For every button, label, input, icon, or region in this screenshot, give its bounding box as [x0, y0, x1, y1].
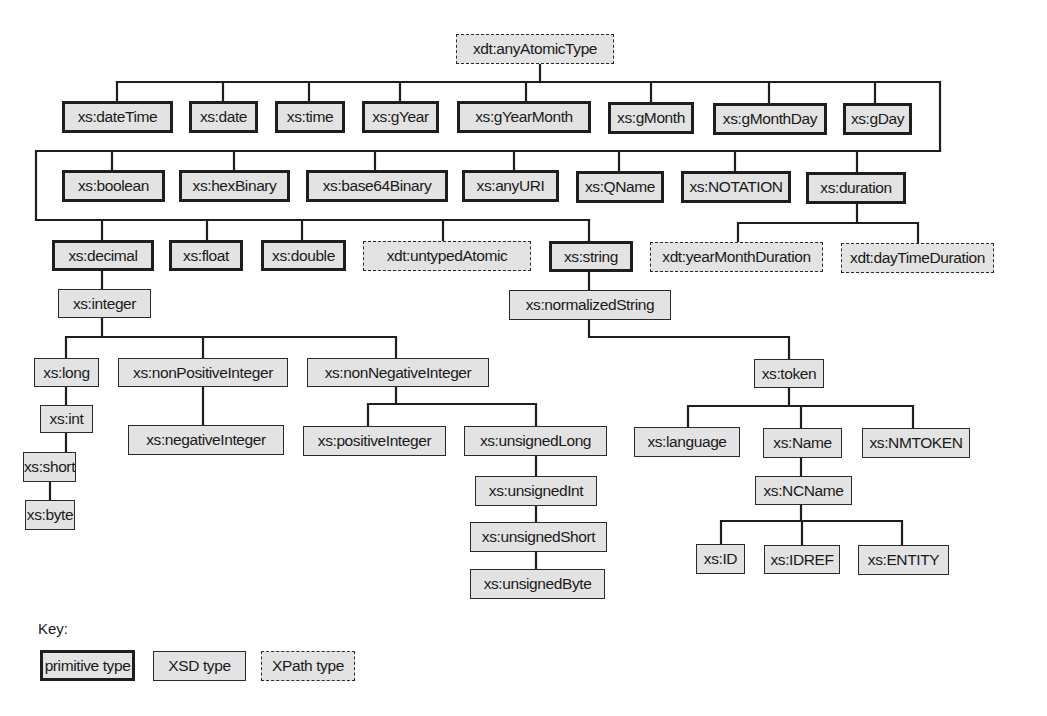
type-node-int: xs:int — [40, 405, 93, 433]
type-node-base64binary: xs:base64Binary — [306, 170, 448, 202]
type-node-gday: xs:gDay — [843, 103, 912, 135]
type-node-datetime: xs:dateTime — [62, 101, 173, 133]
type-node-negativeinteger: xs:negativeInteger — [128, 425, 284, 455]
type-node-gyearmonth: xs:gYearMonth — [457, 101, 591, 133]
legend-item-xsd: XSD type — [153, 651, 246, 681]
type-node-token: xs:token — [754, 359, 824, 388]
key-title: Key: — [38, 620, 68, 637]
type-node-unsignedshort: xs:unsignedShort — [470, 522, 607, 552]
type-node-date: xs:date — [189, 101, 258, 133]
type-node-unsignedbyte: xs:unsignedByte — [470, 569, 605, 599]
legend-item-xpath: XPath type — [261, 651, 355, 681]
type-node-id: xs:ID — [696, 544, 745, 574]
type-node-byte: xs:byte — [25, 500, 75, 530]
type-node-nonnegativeinteger: xs:nonNegativeInteger — [307, 358, 489, 387]
type-node-double: xs:double — [261, 240, 346, 271]
type-node-anyatomictype: xdt:anyAtomicType — [456, 34, 614, 64]
type-node-daytimeduration: xdt:dayTimeDuration — [841, 243, 994, 273]
type-node-boolean: xs:boolean — [62, 170, 165, 202]
type-node-nonpositiveinteger: xs:nonPositiveInteger — [118, 358, 288, 387]
type-node-time: xs:time — [275, 101, 345, 133]
type-node-unsignedint: xs:unsignedInt — [475, 476, 597, 506]
type-node-hexbinary: xs:hexBinary — [179, 170, 290, 202]
type-node-untypedatomic: xdt:untypedAtomic — [363, 241, 531, 271]
type-node-integer: xs:integer — [58, 289, 151, 318]
type-node-name: xs:Name — [763, 428, 842, 458]
type-node-gyear: xs:gYear — [362, 101, 439, 133]
type-node-unsignedlong: xs:unsignedLong — [464, 426, 607, 456]
type-node-notation: xs:NOTATION — [681, 171, 791, 203]
type-node-decimal: xs:decimal — [52, 240, 154, 271]
type-node-language: xs:language — [634, 427, 740, 457]
type-node-positiveinteger: xs:positiveInteger — [303, 426, 446, 456]
type-node-normalizedstring: xs:normalizedString — [509, 290, 671, 320]
type-node-gmonth: xs:gMonth — [608, 102, 694, 134]
type-hierarchy-diagram: xdt:anyAtomicTypexs:dateTimexs:datexs:ti… — [0, 0, 1047, 716]
type-node-qname: xs:QName — [576, 171, 664, 203]
type-node-long: xs:long — [34, 358, 99, 387]
type-node-anyuri: xs:anyURI — [462, 170, 559, 202]
type-node-ncname: xs:NCName — [755, 476, 852, 505]
type-node-gmonthday: xs:gMonthDay — [713, 103, 827, 135]
type-node-float: xs:float — [169, 240, 243, 271]
type-node-entity: xs:ENTITY — [858, 545, 949, 575]
type-node-duration: xs:duration — [806, 172, 906, 204]
type-node-short: xs:short — [23, 452, 76, 482]
legend-item-primitive: primitive type — [40, 650, 135, 681]
type-node-idref: xs:IDREF — [764, 545, 840, 574]
type-node-yearmonthduration: xdt:yearMonthDuration — [650, 242, 823, 272]
type-node-nmtoken: xs:NMTOKEN — [862, 428, 970, 458]
type-node-string: xs:string — [549, 241, 633, 272]
